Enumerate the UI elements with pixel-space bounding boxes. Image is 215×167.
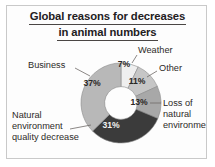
slice-value-natural-environment-quality-decrease: 31% bbox=[102, 120, 120, 130]
leader-line-business bbox=[75, 68, 90, 76]
callout-label-neqd-line-1: Natural bbox=[12, 110, 42, 120]
leader-line-natural-environment-quality-decrease bbox=[70, 125, 91, 129]
donut-chart-plot: 7% 11% 13% 31% 37% Weather Other Loss of… bbox=[7, 6, 207, 159]
leader-line-weather bbox=[132, 55, 137, 63]
callout-label-loss-line-1: Loss of bbox=[163, 98, 193, 108]
slice-value-other: 11% bbox=[129, 76, 146, 86]
callout-label-weather: Weather bbox=[138, 45, 173, 55]
callout-label-natural-environment-quality-decrease: Natural environment quality decrease bbox=[12, 110, 79, 142]
slice-value-business: 37% bbox=[83, 78, 101, 88]
callout-label-neqd-line-2: environment bbox=[12, 121, 63, 131]
slice-value-weather: 7% bbox=[118, 59, 131, 69]
callout-label-other: Other bbox=[159, 63, 182, 73]
donut-slice-group bbox=[81, 63, 161, 143]
slice-value-loss-of-natural-environment: 13% bbox=[130, 97, 148, 107]
callout-label-loss-of-natural-environment: Loss of natural environment bbox=[163, 98, 207, 130]
chart-card: Global reasons for decreases in animal n… bbox=[6, 5, 207, 159]
callout-label-loss-line-3: environment bbox=[163, 120, 207, 130]
callout-label-neqd-line-3: quality decrease bbox=[12, 132, 79, 142]
callout-label-business: Business bbox=[28, 60, 66, 70]
callout-label-loss-line-2: natural bbox=[163, 109, 191, 119]
